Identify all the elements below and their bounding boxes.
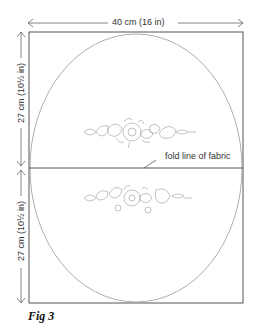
fold-leader-line xyxy=(144,160,156,168)
width-label: 40 cm (16 in) xyxy=(112,17,165,27)
top-floral-embroidery-motif xyxy=(84,118,196,148)
figure-caption: Fig 3 xyxy=(28,309,54,324)
bottom-height-label: 27 cm (10½ in) xyxy=(16,195,26,267)
fold-line-label: fold line of fabric xyxy=(165,151,231,161)
top-height-label: 27 cm (10½ in) xyxy=(16,57,26,129)
pattern-diagram xyxy=(0,0,257,331)
bottom-floral-embroidery-motif xyxy=(84,186,192,214)
